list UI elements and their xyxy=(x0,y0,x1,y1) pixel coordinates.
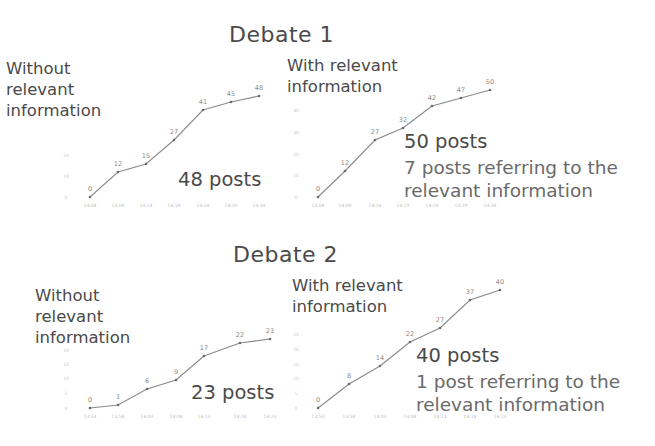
x-tick-label: 14:24 xyxy=(197,203,210,208)
data-point xyxy=(269,338,272,341)
debate-2-with-label: With relevant information xyxy=(292,275,403,317)
data-label: 40 xyxy=(496,278,504,286)
debate-1-without-posts: 48 posts xyxy=(178,168,261,191)
y-tick-label: 15 xyxy=(63,362,69,367)
data-label: 47 xyxy=(457,86,465,94)
y-tick-label: 5 xyxy=(295,391,298,396)
y-tick-label: 0 xyxy=(295,195,298,200)
data-point xyxy=(258,95,261,98)
x-tick-label: 14:34 xyxy=(484,203,497,208)
data-point xyxy=(344,170,347,173)
refer-line: 7 posts referring to the xyxy=(404,156,618,179)
y-tick-label: 5 xyxy=(65,391,68,396)
data-label: 6 xyxy=(145,377,149,385)
data-label: 27 xyxy=(170,128,178,136)
label-line: information xyxy=(287,76,398,97)
data-point xyxy=(117,404,120,407)
data-point xyxy=(317,407,320,410)
data-label: 0 xyxy=(88,396,92,404)
data-point xyxy=(460,97,463,100)
data-point xyxy=(317,196,320,199)
label-line: information xyxy=(292,296,403,317)
data-point xyxy=(203,355,206,358)
debate-1-title: Debate 1 xyxy=(229,22,334,47)
data-label: 12 xyxy=(114,160,122,168)
y-tick-label: 0 xyxy=(65,195,68,200)
data-point xyxy=(409,341,412,344)
data-label: 45 xyxy=(227,90,235,98)
x-tick-label: 14:04 xyxy=(84,203,97,208)
data-label: 48 xyxy=(255,84,263,92)
x-tick-label: 14:09 xyxy=(339,203,352,208)
debate-2-with-refer: 1 post referring to the relevant informa… xyxy=(416,370,620,416)
y-tick-label: 0 xyxy=(65,406,68,411)
y-tick-label: 40 xyxy=(293,108,299,113)
data-label: 0 xyxy=(316,185,320,193)
data-point xyxy=(489,89,492,92)
label-line: With relevant xyxy=(287,55,398,76)
data-label: 9 xyxy=(174,368,178,376)
y-tick-label: 10 xyxy=(63,376,69,381)
data-label: 42 xyxy=(428,94,436,102)
data-label: 14 xyxy=(376,354,384,362)
data-point xyxy=(202,109,205,112)
debate-2-without-posts: 23 posts xyxy=(191,381,274,404)
label-line: Without xyxy=(35,285,130,306)
x-tick-label: 13:58 xyxy=(343,414,356,419)
label-line: information xyxy=(35,327,130,348)
x-tick-label: 13:53 xyxy=(84,414,97,419)
refer-line: 1 post referring to the xyxy=(416,370,620,393)
data-point xyxy=(230,101,233,104)
debate-1-with-posts: 50 posts xyxy=(404,130,487,153)
debate-2-title: Debate 2 xyxy=(233,242,338,267)
data-label: 8 xyxy=(347,372,351,380)
x-tick-label: 14:24 xyxy=(426,203,439,208)
data-label: 50 xyxy=(486,78,494,86)
y-tick-label: 10 xyxy=(293,376,299,381)
x-tick-label: 14:03 xyxy=(374,414,387,419)
data-label: 0 xyxy=(316,396,320,404)
y-tick-label: 20 xyxy=(293,152,299,157)
x-tick-label: 14:13 xyxy=(198,414,211,419)
x-tick-label: 14:14 xyxy=(140,203,153,208)
data-point xyxy=(379,365,382,368)
data-point xyxy=(439,327,442,330)
label-line: relevant xyxy=(35,306,130,327)
data-point xyxy=(145,163,148,166)
label-line: With relevant xyxy=(292,275,403,296)
x-tick-label: 14:08 xyxy=(404,414,417,419)
debate-1-with-label: With relevant information xyxy=(287,55,398,97)
data-label: 22 xyxy=(406,330,414,338)
y-tick-label: 15 xyxy=(293,362,299,367)
data-label: 32 xyxy=(399,116,407,124)
data-label: 22 xyxy=(236,331,244,339)
x-tick-label: 14:18 xyxy=(234,414,247,419)
refer-line: relevant information xyxy=(404,179,618,202)
x-tick-label: 14:29 xyxy=(225,203,238,208)
data-label: 0 xyxy=(88,185,92,193)
x-tick-label: 14:08 xyxy=(170,414,183,419)
x-tick-label: 14:04 xyxy=(312,203,325,208)
data-label: 15 xyxy=(142,152,150,160)
data-point xyxy=(146,388,149,391)
y-tick-label: 30 xyxy=(293,130,299,135)
x-tick-label: 14:29 xyxy=(455,203,468,208)
data-label: 17 xyxy=(200,344,208,352)
data-point xyxy=(89,196,92,199)
data-point xyxy=(499,289,502,292)
label-line: Without xyxy=(6,58,101,79)
data-label: 1 xyxy=(116,393,120,401)
x-tick-label: 14:14 xyxy=(369,203,382,208)
data-point xyxy=(117,171,120,174)
data-label: 37 xyxy=(466,288,474,296)
debate-2-without-label: Without relevant information xyxy=(35,285,130,348)
y-tick-label: 20 xyxy=(63,348,69,353)
data-point xyxy=(89,407,92,410)
data-label: 27 xyxy=(436,316,444,324)
y-tick-label: 25 xyxy=(293,332,299,337)
data-label: 27 xyxy=(371,128,379,136)
y-tick-label: 20 xyxy=(63,153,69,158)
data-point xyxy=(374,139,377,142)
debate-1-without-label: Without relevant information xyxy=(6,58,101,121)
refer-line: relevant information xyxy=(416,393,620,416)
